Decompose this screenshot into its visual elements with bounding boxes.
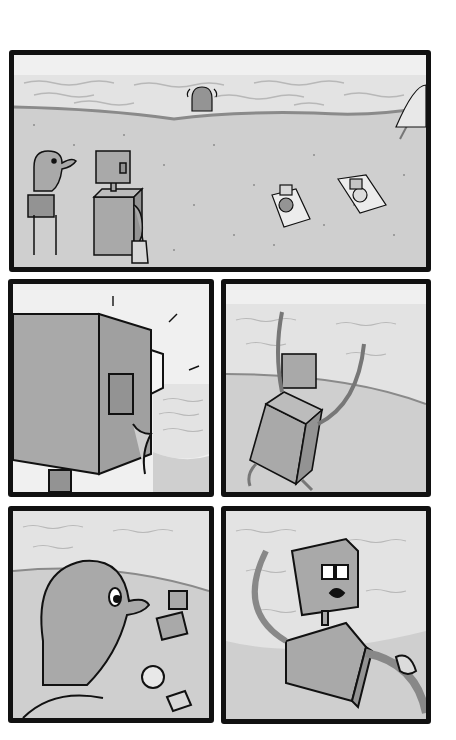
- robot-alarmed-illustration: [226, 511, 426, 719]
- comic-panel-5: Robot stops, looking alarmed, as a hand …: [221, 506, 431, 724]
- dog-watching-illustration: [13, 511, 209, 718]
- comic-panel-1: Wide beach scene: dog with backpack and …: [9, 50, 431, 272]
- beach-scene-illustration: [14, 55, 426, 267]
- comic-panel-4: Dog watches from behind as the robot run…: [8, 506, 214, 723]
- comic-panel-3: Robot runs toward the water with both ar…: [221, 279, 431, 497]
- robot-running-illustration: [226, 284, 426, 492]
- robot-headturn-illustration: [13, 284, 209, 492]
- comic-panel-2: Close-up of the robot's box head from be…: [8, 279, 214, 497]
